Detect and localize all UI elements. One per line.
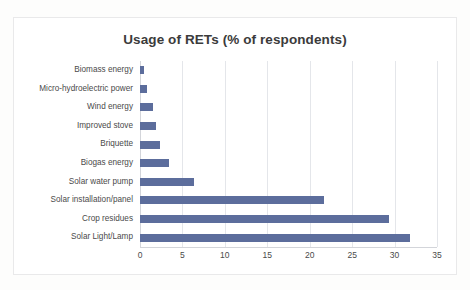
bar-row [140, 173, 437, 192]
tick-label-10: 10 [220, 250, 229, 260]
bar [140, 178, 194, 186]
bar [140, 85, 147, 93]
bar [140, 103, 153, 111]
bar-row [140, 61, 437, 80]
gridline-35 [437, 61, 438, 247]
bar-row [140, 135, 437, 154]
tick-label-35: 35 [432, 250, 441, 260]
tick-label-0: 0 [138, 250, 143, 260]
value-axis-line [140, 247, 437, 248]
category-label: Wind energy [27, 98, 137, 117]
category-label: Biomass energy [27, 61, 137, 80]
bar-row [140, 80, 437, 99]
chart-page: Usage of RETs (% of respondents) Biomass… [0, 0, 470, 290]
chart-title: Usage of RETs (% of respondents) [14, 32, 456, 47]
category-label: Crop residues [27, 210, 137, 229]
bar [140, 159, 169, 167]
bar [140, 122, 156, 130]
bar-series [140, 61, 437, 247]
category-label: Briquette [27, 135, 137, 154]
value-axis-tick-labels: 05101520253035 [140, 250, 437, 266]
tick-label-15: 15 [263, 250, 272, 260]
category-label: Solar water pump [27, 173, 137, 192]
chart-frame: Usage of RETs (% of respondents) Biomass… [13, 17, 457, 275]
bar-row [140, 228, 437, 247]
tick-label-30: 30 [390, 250, 399, 260]
bar [140, 66, 144, 74]
bar [140, 196, 324, 204]
category-label: Improved stove [27, 117, 137, 136]
bar-row [140, 191, 437, 210]
category-label: Solar Light/Lamp [27, 228, 137, 247]
category-label: Micro-hydroelectric power [27, 80, 137, 99]
bar [140, 141, 160, 149]
plot-area [140, 61, 437, 247]
bar-row [140, 98, 437, 117]
bar [140, 234, 410, 242]
bar-row [140, 154, 437, 173]
category-label: Biogas energy [27, 154, 137, 173]
tick-label-25: 25 [347, 250, 356, 260]
category-label: Solar installation/panel [27, 191, 137, 210]
category-axis-labels: Biomass energyMicro-hydroelectric powerW… [27, 61, 137, 247]
bar-row [140, 117, 437, 136]
bar [140, 215, 389, 223]
tick-label-5: 5 [180, 250, 185, 260]
bar-row [140, 210, 437, 229]
tick-label-20: 20 [305, 250, 314, 260]
